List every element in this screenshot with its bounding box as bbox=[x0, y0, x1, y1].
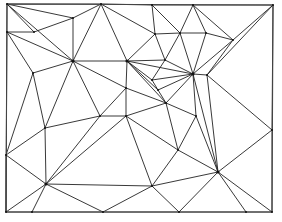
vertex-r1 bbox=[271, 129, 273, 131]
vertex-br bbox=[271, 211, 273, 213]
vertex-O bbox=[44, 127, 46, 129]
vertex-B bbox=[72, 17, 74, 19]
vertex-J bbox=[232, 39, 234, 41]
vertex-t3 bbox=[192, 4, 194, 6]
triangulation-diagram bbox=[0, 0, 282, 222]
vertex-t1 bbox=[100, 3, 102, 5]
vertex-C bbox=[71, 59, 74, 62]
vertex-D bbox=[125, 59, 128, 62]
vertex-H bbox=[191, 72, 194, 75]
vertex-b2 bbox=[102, 211, 104, 213]
vertex-X bbox=[151, 185, 153, 187]
vertex-E bbox=[32, 72, 34, 74]
vertex-b1 bbox=[31, 211, 33, 213]
vertex-N bbox=[99, 115, 101, 117]
vertex-M bbox=[125, 87, 127, 89]
vertex-L bbox=[154, 33, 156, 35]
vertex-S bbox=[177, 149, 179, 151]
vertex-tr bbox=[272, 4, 274, 6]
vertex-tl bbox=[6, 3, 8, 5]
vertex-I bbox=[206, 74, 208, 76]
vertex-Q bbox=[125, 115, 127, 117]
vertex-U bbox=[157, 89, 159, 91]
vertex-G bbox=[205, 32, 207, 34]
vertex-l1 bbox=[6, 31, 8, 33]
vertex-b3 bbox=[178, 211, 180, 213]
vertex-bl bbox=[5, 211, 7, 213]
vertex-R bbox=[165, 102, 167, 104]
vertex-t2 bbox=[151, 4, 153, 6]
vertex-V bbox=[195, 115, 197, 117]
vertex-b4 bbox=[245, 211, 247, 213]
vertex-W bbox=[216, 170, 219, 173]
vertex-T bbox=[151, 79, 153, 81]
vertex-l2 bbox=[5, 154, 7, 156]
vertex-F bbox=[179, 32, 181, 34]
vertex-P bbox=[44, 182, 47, 185]
vertex-K bbox=[164, 59, 166, 61]
vertex-A bbox=[33, 31, 35, 33]
